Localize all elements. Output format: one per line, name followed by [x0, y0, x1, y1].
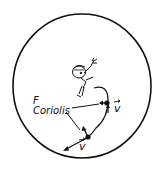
arrow-downleft-icon [63, 146, 69, 151]
arrow-upleft-icon [82, 126, 87, 131]
trajectory-path [88, 87, 108, 137]
leader-line-upper [72, 104, 99, 108]
coriolis-diagram: F Coriolis v v [0, 0, 162, 171]
force-label-subscript: Coriolis [33, 101, 70, 117]
figure-icon [73, 58, 98, 97]
velocity-label-upper: v [114, 103, 121, 114]
arrow-left-icon [99, 101, 103, 106]
velocity-label-lower: v [79, 141, 86, 152]
